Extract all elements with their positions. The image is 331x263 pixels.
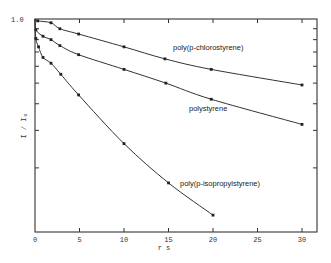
series-polystyrene: polystyrene: [34, 19, 303, 126]
data-point-marker: [77, 94, 80, 97]
series-label: polystyrene: [189, 104, 227, 113]
line-chart: 051015202530 poly(p-chlorostyrene)polyst…: [0, 0, 331, 263]
data-point-marker: [34, 37, 37, 40]
series-line: [35, 19, 302, 124]
data-point-marker: [77, 53, 80, 56]
data-point-marker: [210, 68, 213, 71]
series-poly-p-chlorostyrene: poly(p-chlorostyrene): [35, 19, 303, 86]
data-point-marker: [50, 21, 53, 24]
data-point-marker: [42, 56, 45, 59]
y-tick-label-top: 1.0: [11, 16, 24, 24]
data-point-marker: [212, 214, 215, 217]
data-point-marker: [36, 19, 39, 22]
data-point-marker: [164, 82, 167, 85]
data-point-marker: [123, 68, 126, 71]
data-point-marker: [42, 35, 45, 38]
data-point-marker: [164, 57, 167, 60]
data-point-marker: [37, 45, 40, 48]
x-tick-label: 10: [120, 236, 128, 244]
y-axis-title: I / I₀: [20, 113, 28, 138]
x-tick-label: 20: [209, 236, 217, 244]
x-tick-label: 25: [253, 236, 261, 244]
data-point-marker: [301, 84, 304, 87]
data-point-marker: [210, 98, 213, 101]
series-line: [35, 19, 302, 85]
series-label: poly(p-isopropylstyrene): [180, 179, 261, 188]
data-point-marker: [301, 123, 304, 126]
data-point-marker: [77, 33, 80, 36]
x-tick-label: 30: [298, 236, 306, 244]
data-point-marker: [50, 38, 53, 41]
x-tick-label: 0: [33, 236, 37, 244]
series-label: poly(p-chlorostyrene): [173, 43, 244, 52]
data-series: poly(p-chlorostyrene)polystyrenepoly(p-i…: [34, 19, 303, 217]
chart: 051015202530 poly(p-chlorostyrene)polyst…: [0, 0, 331, 263]
data-point-marker: [123, 142, 126, 145]
data-point-marker: [59, 27, 62, 30]
data-point-marker: [59, 44, 62, 47]
x-axis-title: r s: [158, 244, 171, 252]
data-point-marker: [50, 62, 53, 65]
data-point-marker: [123, 45, 126, 48]
data-point-marker: [59, 73, 62, 76]
data-point-marker: [167, 182, 170, 185]
x-tick-label: 5: [77, 236, 81, 244]
x-tick-label: 15: [164, 236, 172, 244]
